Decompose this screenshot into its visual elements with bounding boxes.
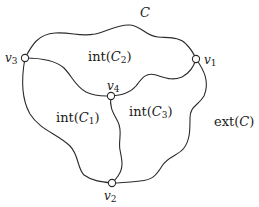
planar-graph-diagram: C v1 v2 v3 v4 int(C2) int(C1) int(C3) ex… — [0, 0, 259, 207]
vertex-label-v1: v1 — [204, 53, 217, 68]
region-label-int-c2: int(C2) — [88, 49, 132, 65]
vertex-label-v2: v2 — [104, 189, 117, 204]
region-label-ext-c: ext(C) — [214, 114, 254, 129]
vertex-label-v3: v3 — [5, 51, 18, 66]
region-label-int-c1: int(C1) — [56, 110, 100, 126]
vertex-v3 — [21, 54, 28, 61]
edge-v1-v2-outer-right — [112, 59, 206, 183]
vertex-label-v4: v4 — [107, 79, 120, 94]
curve-label-c: C — [140, 5, 150, 20]
edge-v4-v2 — [111, 96, 122, 183]
region-label-int-c3: int(C3) — [129, 104, 173, 120]
vertex-v1 — [192, 55, 199, 62]
vertex-v2 — [108, 179, 115, 186]
